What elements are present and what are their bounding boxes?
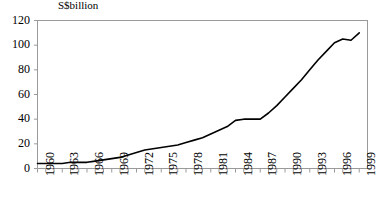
x-axis-tick-label: 1990 [290,152,305,176]
y-axis-tick-label: 0 [0,161,30,176]
y-axis-tick-label: 80 [0,62,30,77]
x-axis-tick-label: 1981 [216,152,231,176]
x-axis-tick-label: 1972 [142,152,157,176]
x-axis-tick-label: 1960 [43,152,58,176]
y-axis-tick-label: 60 [0,87,30,102]
x-axis-tick-label: 1999 [364,152,379,176]
x-axis-tick-label: 1978 [191,152,206,176]
y-axis-tick-label: 40 [0,111,30,126]
y-axis-ticks [34,21,38,169]
x-axis-tick-label: 1963 [67,152,82,176]
x-axis-tick-label: 1966 [92,152,107,176]
x-axis-tick-label: 1987 [265,152,280,176]
x-axis-tick-label: 1984 [241,152,256,176]
y-axis-tick-label: 20 [0,136,30,151]
x-axis-tick-label: 1975 [166,152,181,176]
y-axis-tick-label: 120 [0,13,30,28]
y-axis-tick-label: 100 [0,37,30,52]
axes [38,20,369,169]
x-axis-tick-label: 1969 [117,152,132,176]
x-axis-tick-label: 1996 [340,152,355,176]
data-series-line [38,33,360,164]
x-axis-tick-label: 1993 [315,152,330,176]
